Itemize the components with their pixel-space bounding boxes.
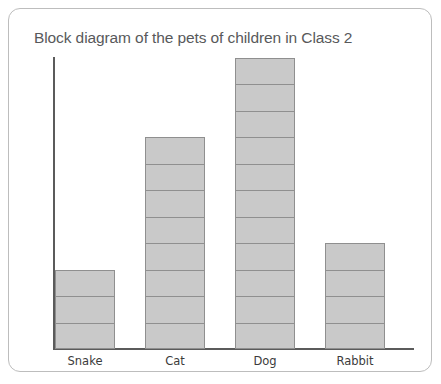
block bbox=[235, 111, 295, 138]
x-tick-label-dog: Dog bbox=[215, 354, 315, 368]
block bbox=[235, 190, 295, 217]
chart-figure: Block diagram of the pets of children in… bbox=[0, 0, 441, 384]
block bbox=[145, 164, 205, 191]
x-axis-tick-labels: SnakeCatDogRabbit bbox=[55, 354, 414, 374]
block bbox=[145, 190, 205, 217]
bar-snake bbox=[55, 270, 115, 350]
block bbox=[145, 323, 205, 350]
block bbox=[235, 270, 295, 297]
block bbox=[145, 243, 205, 270]
x-tick-label-cat: Cat bbox=[125, 354, 225, 368]
block bbox=[235, 84, 295, 111]
block bbox=[235, 58, 295, 85]
block bbox=[55, 323, 115, 350]
block bbox=[145, 296, 205, 323]
block bbox=[235, 296, 295, 323]
block bbox=[235, 137, 295, 164]
block bbox=[145, 137, 205, 164]
block bbox=[325, 296, 385, 323]
bar-dog bbox=[235, 58, 295, 350]
chart-card: Block diagram of the pets of children in… bbox=[8, 8, 432, 372]
plot-area bbox=[55, 49, 414, 349]
block bbox=[235, 243, 295, 270]
chart-title: Block diagram of the pets of children in… bbox=[34, 29, 352, 47]
block bbox=[55, 296, 115, 323]
block bbox=[235, 164, 295, 191]
block bbox=[235, 217, 295, 244]
block bbox=[325, 270, 385, 297]
block bbox=[145, 217, 205, 244]
block bbox=[235, 323, 295, 350]
block bbox=[325, 323, 385, 350]
bar-cat bbox=[145, 137, 205, 349]
block bbox=[325, 243, 385, 270]
x-tick-label-snake: Snake bbox=[35, 354, 135, 368]
block bbox=[55, 270, 115, 297]
x-tick-label-rabbit: Rabbit bbox=[305, 354, 405, 368]
bar-rabbit bbox=[325, 243, 385, 349]
block bbox=[145, 270, 205, 297]
